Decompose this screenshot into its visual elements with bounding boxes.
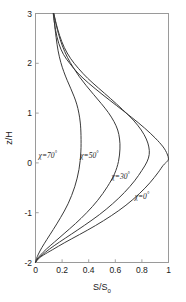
x-tick-label: 0.4 [83,265,95,275]
y-tick-label: -1 [24,208,32,218]
x-tick-label: 0.8 [136,265,148,275]
curve-label-chi-30: χ=30° [110,171,130,181]
y-tick-label: -2 [24,258,32,268]
curve-label-chi-50: χ=50° [79,150,99,160]
x-tick-label: 0 [33,265,38,275]
x-tick-label: 0.2 [56,265,68,275]
line-chart: 00.20.40.60.81 3210-1-2 χ=0°χ=30°χ=50°χ=… [0,0,186,302]
y-tick-label: 0 [27,158,32,168]
curve-label-chi-70: χ=70° [38,150,58,160]
figure-container: 00.20.40.60.81 3210-1-2 χ=0°χ=30°χ=50°χ=… [0,0,186,302]
x-tick-label: 0.6 [109,265,121,275]
y-axis-title: z/H [4,131,14,145]
x-tick-label: 1 [166,265,171,275]
y-tick-label: 3 [27,9,32,19]
y-tick-label: 2 [27,58,32,68]
y-tick-label: 1 [27,108,32,118]
